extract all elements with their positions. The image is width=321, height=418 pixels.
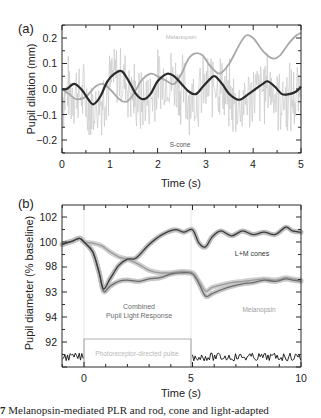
ytick-label: 102 <box>39 211 57 223</box>
ytick-label: 92 <box>45 336 57 348</box>
ytick-label: 0.1 <box>42 57 57 69</box>
panel-b-label: (b) <box>18 196 34 211</box>
caption-text: Melanopsin-mediated PLR and rod, cone an… <box>8 404 269 416</box>
xtick-label: 4 <box>250 158 256 170</box>
panel-a-ylabel: Pupil dilation (mm) <box>25 43 37 134</box>
xtick-label: 0 <box>81 372 87 384</box>
ytick-label: 0.2 <box>42 32 57 44</box>
xtick-label: 2 <box>155 158 161 170</box>
annotation-pulse: Photoreceptor-directed pulse <box>95 350 179 358</box>
panel-b-ylabel: Pupil diameter (% baseline) <box>23 216 35 351</box>
panel-a-xlabel: Time (s) <box>161 177 201 189</box>
ytick-label: 98 <box>45 260 57 272</box>
panel-b: (b) Pupil diameter (% baseline) 102 100 … <box>18 196 307 399</box>
panel-b-ytick-labels: 102 100 98 93 94 92 <box>39 211 57 348</box>
panel-b-xlabel: Time (s) <box>161 387 201 399</box>
annotation-combined-line1: Combined <box>123 303 155 310</box>
annotation-lm-cones: L+M cones <box>235 250 270 257</box>
annotation-scone-a: S-cone <box>170 141 191 148</box>
xtick-label: 10 <box>295 372 307 384</box>
figure-caption: 7 Melanopsin-mediated PLR and rod, cone … <box>0 404 321 418</box>
scone-raw-noise-trace <box>62 48 301 135</box>
ytick-label: 100 <box>39 236 57 248</box>
panel-a: (a) Pupil dilation (mm) 0.2 0.1 0.0 −0.1… <box>18 21 304 189</box>
ytick-label: −0.2 <box>36 134 57 146</box>
annotation-melanopsin-b: Melanopsin <box>242 306 276 314</box>
annotation-melanopsin-a: Melanopsin <box>166 34 197 40</box>
xtick-label: 5 <box>188 372 194 384</box>
annotation-combined-line2: Pupil Light Response <box>106 312 172 320</box>
panel-a-xtick-labels: 0 1 2 3 4 5 <box>59 158 304 170</box>
xtick-label: 5 <box>298 158 304 170</box>
panel-a-ytick-labels: 0.2 0.1 0.0 −0.1 −0.2 <box>36 32 57 146</box>
panel-b-xtick-labels: 0 5 10 <box>81 372 307 384</box>
ytick-label: 94 <box>45 311 57 323</box>
panel-a-label: (a) <box>18 21 34 36</box>
xtick-label: 1 <box>107 158 113 170</box>
ytick-label: 0.0 <box>42 83 57 95</box>
ytick-label: −0.1 <box>36 109 57 121</box>
ytick-label: 93 <box>45 286 57 298</box>
xtick-label: 3 <box>203 158 209 170</box>
caption-number: 7 <box>0 404 6 416</box>
xtick-label: 0 <box>59 158 65 170</box>
